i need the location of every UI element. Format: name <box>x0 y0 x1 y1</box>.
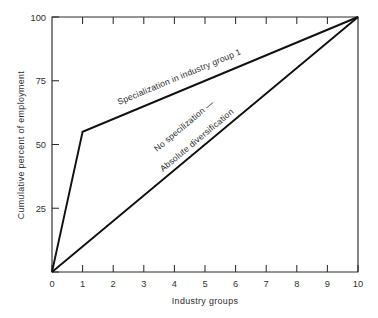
x-tick-label-1: 1 <box>80 279 85 289</box>
x-tick-label-8: 8 <box>294 279 299 289</box>
lorenz-curve-chart: 100 75 50 25 0 1 2 3 4 5 6 7 8 9 10 <box>0 0 378 318</box>
x-tick-label-0: 0 <box>49 279 54 289</box>
x-tick-label-4: 4 <box>172 279 177 289</box>
x-axis-title: Industry groups <box>172 296 239 306</box>
chart-figure: 100 75 50 25 0 1 2 3 4 5 6 7 8 9 10 <box>0 0 378 318</box>
y-tick-label-25: 25 <box>36 204 46 214</box>
y-tick-label-50: 50 <box>36 140 46 150</box>
y-axis-title: Cumulative percent of employment <box>16 71 26 220</box>
x-tick-label-6: 6 <box>233 279 238 289</box>
y-tick-label-100: 100 <box>30 13 46 23</box>
y-tick-label-75: 75 <box>36 76 46 86</box>
x-tick-label-10: 10 <box>353 279 363 289</box>
x-tick-label-2: 2 <box>111 279 116 289</box>
x-tick-label-5: 5 <box>202 279 207 289</box>
x-tick-label-3: 3 <box>141 279 146 289</box>
x-tick-label-7: 7 <box>264 279 269 289</box>
x-tick-label-9: 9 <box>325 279 330 289</box>
